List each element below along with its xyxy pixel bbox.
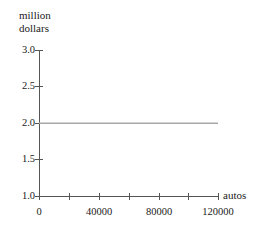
chart-container: million dollars autos 3.0 2.5 2.0 1.5 1.… <box>0 0 263 225</box>
plot-area <box>0 0 263 225</box>
